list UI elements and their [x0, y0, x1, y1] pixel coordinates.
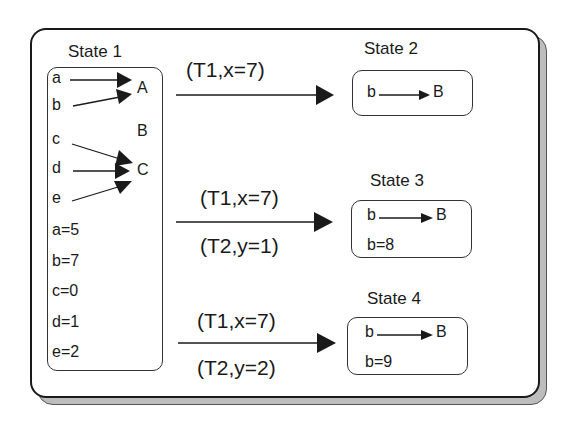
state-3-value-b: b=8: [367, 237, 394, 253]
transition-1-top-label: (T1,x=7): [186, 59, 265, 80]
state-3-mapping-from: b: [367, 207, 376, 223]
state-1-target-C: C: [137, 162, 149, 178]
state-2-mapping-from: b: [367, 84, 376, 100]
state-1-value-c: c=0: [52, 283, 78, 299]
transition-3-bottom-label: (T2,y=2): [197, 357, 276, 378]
transition-2-bottom-label: (T2,y=1): [200, 235, 279, 256]
state-1-target-B: B: [137, 123, 148, 139]
state-3-mapping-to: B: [436, 207, 447, 223]
state-1-source-e: e: [52, 190, 61, 206]
state-2-mapping-to: B: [433, 84, 444, 100]
transition-2-top-label: (T1,x=7): [200, 187, 279, 208]
state-2-title: State 2: [364, 40, 418, 57]
state-1-value-d: d=1: [52, 314, 79, 330]
state-3-title: State 3: [370, 172, 424, 189]
state-1-value-e: e=2: [52, 344, 79, 360]
state-1-source-a: a: [52, 70, 61, 86]
state-1-source-d: d: [52, 160, 61, 176]
state-1-source-b: b: [52, 97, 61, 113]
state-1-title: State 1: [68, 43, 122, 60]
state-1-target-A: A: [137, 80, 148, 96]
state-1-value-b: b=7: [52, 253, 79, 269]
state-4-value-b: b=9: [365, 354, 392, 370]
state-4-mapping-to: B: [436, 324, 447, 340]
state-4-mapping-from: b: [365, 324, 374, 340]
state-1-value-a: a=5: [52, 222, 79, 238]
state-4-title: State 4: [367, 290, 421, 307]
transition-3-top-label: (T1,x=7): [197, 310, 276, 331]
state-1-source-c: c: [52, 131, 60, 147]
